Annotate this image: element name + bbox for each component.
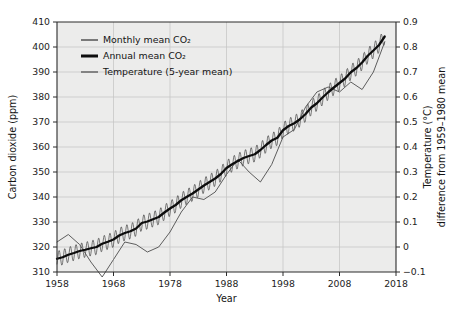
legend-label-2: Temperature (5-year mean) xyxy=(102,66,232,77)
y2-axis-tick-label: −0.1 xyxy=(403,266,426,277)
y2-axis-tick-label: 0.3 xyxy=(403,166,418,177)
x-axis-tick-label: 1978 xyxy=(158,278,182,289)
y-axis-tick-label: 350 xyxy=(32,166,50,177)
y2-axis-tick-label: 0.6 xyxy=(403,91,418,102)
co2-temperature-chart: 310320330340350360370380390400410−0.100.… xyxy=(0,0,462,311)
y2-axis-tick-label: 0.9 xyxy=(403,16,418,27)
y2-axis-tick-label: 0.4 xyxy=(403,141,418,152)
x-axis-tick-label: 2018 xyxy=(384,278,408,289)
y-axis-tick-label: 370 xyxy=(32,116,50,127)
x-axis-tick-label: 1988 xyxy=(215,278,239,289)
x-axis-title: Year xyxy=(215,293,236,304)
y2-axis-tick-label: 0.2 xyxy=(403,191,418,202)
y2-axis-tick-label: 0.7 xyxy=(403,66,418,77)
y2-axis-tick-label: 0.5 xyxy=(403,116,418,127)
y-axis-tick-label: 340 xyxy=(32,191,50,202)
y-axis-title: Carbon dioxide (ppm) xyxy=(7,95,18,199)
y-axis-tick-label: 330 xyxy=(32,216,50,227)
legend-label-0: Monthly mean CO₂ xyxy=(103,34,191,45)
y2-axis-tick-label: 0 xyxy=(403,241,409,252)
y-axis-tick-label: 410 xyxy=(32,16,50,27)
x-axis-tick-label: 1968 xyxy=(102,278,126,289)
y-axis-tick-label: 360 xyxy=(32,141,50,152)
y2-axis-title-line2: difference from 1959–1980 mean xyxy=(436,67,447,227)
y2-axis-tick-label: 0.1 xyxy=(403,216,418,227)
y-axis-tick-label: 320 xyxy=(32,241,50,252)
y-axis-tick-label: 380 xyxy=(32,91,50,102)
x-axis-tick-label: 1958 xyxy=(45,278,69,289)
y-axis-tick-label: 390 xyxy=(32,66,50,77)
y-axis-tick-label: 310 xyxy=(32,266,50,277)
x-axis-tick-label: 2008 xyxy=(328,278,352,289)
y2-axis-title-line1: Temperature (°C) xyxy=(422,106,433,190)
legend-label-1: Annual mean CO₂ xyxy=(103,50,186,61)
chart-canvas: 310320330340350360370380390400410−0.100.… xyxy=(0,0,462,311)
x-axis-tick-label: 1998 xyxy=(271,278,295,289)
y2-axis-tick-label: 0.8 xyxy=(403,41,418,52)
y-axis-tick-label: 400 xyxy=(32,41,50,52)
